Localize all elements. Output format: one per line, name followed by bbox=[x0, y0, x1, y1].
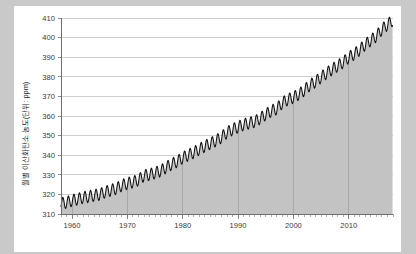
x-tick-label: 1980 bbox=[174, 221, 191, 230]
y-tick-label: 410 bbox=[42, 14, 55, 23]
y-axis-title: 월별 이산화탄소 농도(단위: ppm) bbox=[21, 82, 30, 187]
x-tick-label: 1970 bbox=[119, 221, 136, 230]
x-tick-label: 1960 bbox=[64, 221, 81, 230]
y-tick-label: 400 bbox=[42, 33, 55, 42]
x-axis-tick-labels: 196019701980199020002010 bbox=[64, 221, 358, 230]
y-axis-tick-labels: 310320330340350360370380390400410 bbox=[42, 14, 55, 219]
y-axis-title-text: 월별 이산화탄소 농도(단위: ppm) bbox=[21, 82, 30, 187]
y-tick-label: 320 bbox=[42, 190, 55, 199]
y-tick-label: 310 bbox=[42, 210, 55, 219]
y-tick-label: 350 bbox=[42, 131, 55, 140]
y-axis-ticks bbox=[58, 18, 62, 214]
co2-concentration-area-chart: 196019701980199020002010 310320330340350… bbox=[14, 6, 401, 252]
x-tick-label: 2010 bbox=[340, 221, 357, 230]
x-axis-ticks bbox=[61, 214, 393, 219]
y-tick-label: 340 bbox=[42, 151, 55, 160]
y-tick-label: 380 bbox=[42, 73, 55, 82]
y-tick-label: 390 bbox=[42, 53, 55, 62]
chart-card: 196019701980199020002010 310320330340350… bbox=[14, 6, 401, 252]
x-tick-label: 2000 bbox=[285, 221, 302, 230]
x-tick-label: 1990 bbox=[230, 221, 247, 230]
y-tick-label: 330 bbox=[42, 171, 55, 180]
y-tick-label: 360 bbox=[42, 112, 55, 121]
y-tick-label: 370 bbox=[42, 92, 55, 101]
chart-container: 196019701980199020002010 310320330340350… bbox=[14, 6, 401, 252]
screenshot-root: 196019701980199020002010 310320330340350… bbox=[0, 0, 416, 254]
